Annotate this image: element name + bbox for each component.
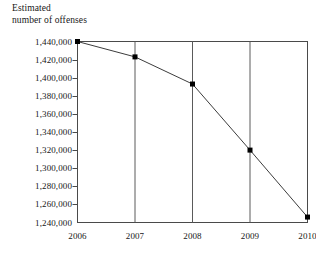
- data-point-2009: [248, 148, 253, 153]
- chart-figure: Estimated number of offenses 1,440,0001,…: [0, 0, 316, 256]
- data-point-2010: [305, 215, 310, 220]
- line-chart-plot: [0, 0, 316, 256]
- data-point-2008: [190, 82, 195, 87]
- vertical-gridlines: [135, 42, 250, 223]
- data-point-2006: [75, 39, 80, 44]
- y-axis-tick-marks: [73, 61, 78, 205]
- data-point-2007: [133, 54, 138, 59]
